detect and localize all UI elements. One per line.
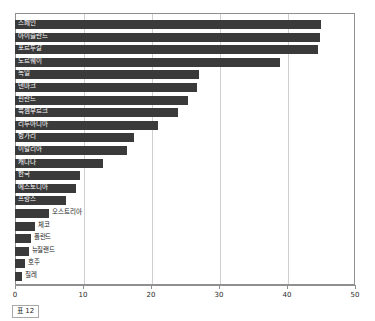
bar-category-label: 호주 [28, 258, 40, 267]
bar [15, 222, 35, 231]
bar-row: 칠레 [15, 272, 355, 281]
x-tick-label: 10 [79, 291, 88, 299]
bar-category-label: 룩셈부르크 [18, 107, 48, 116]
x-axis-line [15, 285, 355, 286]
bar-row: 이탈리아 [15, 146, 355, 155]
bar [15, 20, 321, 29]
x-tick-label: 20 [147, 291, 156, 299]
bar-row: 아이슬란드 [15, 33, 355, 42]
bar-category-label: 이탈리아 [18, 145, 42, 154]
bar-category-label: 오스트리아 [52, 208, 82, 217]
x-tick-mark [219, 285, 220, 289]
bar-row: 덴마크 [15, 83, 355, 92]
x-tick-label: 30 [215, 291, 224, 299]
bar-category-label: 덴마크 [18, 82, 36, 91]
bar-row: 핀란드 [15, 96, 355, 105]
bar-category-label: 폴란드 [34, 233, 52, 242]
bar-category-label: 체코 [38, 221, 50, 230]
bar [15, 259, 25, 268]
bar [15, 58, 280, 67]
bar-category-label: 리투아니아 [18, 120, 48, 129]
bar-category-label: 에스토니아 [18, 183, 48, 192]
x-tick-mark [83, 285, 84, 289]
bar [15, 234, 31, 243]
bar [15, 209, 49, 218]
bar [15, 70, 199, 79]
bar-row: 독일 [15, 70, 355, 79]
bar-category-label: 포르투갈 [18, 44, 42, 53]
x-tick-mark [15, 285, 16, 289]
bar-row: 폴란드 [15, 234, 355, 243]
bar-category-label: 칠레 [25, 271, 37, 280]
x-tick-mark [355, 285, 356, 289]
bar-category-label: 한국 [18, 170, 30, 179]
bar-category-label: 스페인 [18, 19, 36, 28]
bar [15, 272, 22, 281]
bar-category-label: 헝가리 [18, 132, 36, 141]
bar-row: 포르투갈 [15, 45, 355, 54]
bar [15, 33, 320, 42]
bar-row: 스페인 [15, 20, 355, 29]
bar-row: 뉴질랜드 [15, 247, 355, 256]
x-tick-label: 50 [351, 291, 360, 299]
bar-row: 룩셈부르크 [15, 108, 355, 117]
figure-caption: 표 12 [12, 305, 39, 318]
x-tick-mark [151, 285, 152, 289]
bar-category-label: 독일 [18, 69, 30, 78]
bar [15, 45, 318, 54]
bar [15, 96, 188, 105]
bar [15, 247, 29, 256]
bars-layer: 스페인아이슬란드포르투갈노르웨이독일덴마크핀란드룩셈부르크리투아니아헝가리이탈리… [15, 13, 355, 285]
bar-row: 캐나다 [15, 159, 355, 168]
bar-category-label: 캐나다 [18, 158, 36, 167]
bar [15, 83, 197, 92]
bar-row: 오스트리아 [15, 209, 355, 218]
bar-row: 헝가리 [15, 133, 355, 142]
bar-row: 노르웨이 [15, 58, 355, 67]
bar-category-label: 프랑스 [18, 195, 36, 204]
bar-row: 에스토니아 [15, 184, 355, 193]
bar-row: 체코 [15, 222, 355, 231]
bar-category-label: 핀란드 [18, 95, 36, 104]
bar-row: 한국 [15, 171, 355, 180]
x-tick-label: 40 [283, 291, 292, 299]
bar-category-label: 아이슬란드 [18, 32, 48, 41]
bar-row: 프랑스 [15, 196, 355, 205]
bar-row: 호주 [15, 259, 355, 268]
bar-category-label: 노르웨이 [18, 57, 42, 66]
x-tick-label: 0 [13, 291, 17, 299]
x-tick-mark [287, 285, 288, 289]
bar-chart: 스페인아이슬란드포르투갈노르웨이독일덴마크핀란드룩셈부르크리투아니아헝가리이탈리… [0, 0, 375, 321]
bar-category-label: 뉴질랜드 [32, 246, 56, 255]
bar-row: 리투아니아 [15, 121, 355, 130]
